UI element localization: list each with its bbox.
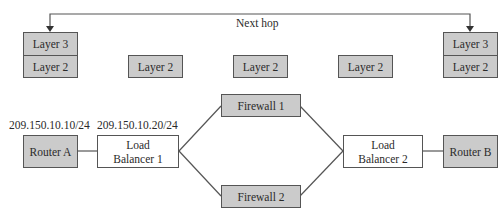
- lb1-label-line2: Balancer 1: [113, 152, 163, 166]
- router-a-ip-label: 209.150.10.10/24: [9, 119, 90, 131]
- right-layer3-label: Layer 3: [453, 37, 488, 51]
- router-a-label: Router A: [30, 145, 72, 159]
- next-hop-label: Next hop: [236, 17, 278, 29]
- left-layer2-box: Layer 2: [23, 55, 78, 78]
- load-balancer-1-node: Load Balancer 1: [97, 135, 179, 168]
- middle-layer2-label: Layer 2: [243, 60, 278, 74]
- lb1-label-line1: Load: [126, 138, 150, 152]
- middle-layer2-box: Layer 2: [233, 55, 288, 78]
- middle-layer2-label: Layer 2: [348, 60, 383, 74]
- lb1-ip-label: 209.150.10.20/24: [97, 119, 178, 131]
- firewall-1-label: Firewall 1: [238, 99, 285, 113]
- left-layer2-label: Layer 2: [33, 60, 68, 74]
- middle-layer2-box: Layer 2: [128, 55, 183, 78]
- right-layer3-box: Layer 3: [443, 32, 498, 56]
- lb2-label-line1: Load: [371, 138, 395, 152]
- firewall-2-label: Firewall 2: [238, 190, 285, 204]
- left-layer3-box: Layer 3: [23, 32, 78, 56]
- router-b-node: Router B: [443, 135, 498, 168]
- right-layer2-box: Layer 2: [443, 55, 498, 78]
- firewall-2-node: Firewall 2: [221, 185, 301, 208]
- router-a-node: Router A: [23, 135, 78, 168]
- right-layer2-label: Layer 2: [453, 60, 488, 74]
- load-balancer-2-node: Load Balancer 2: [343, 135, 423, 168]
- left-layer3-label: Layer 3: [33, 37, 68, 51]
- router-b-label: Router B: [450, 145, 492, 159]
- firewall-1-node: Firewall 1: [221, 94, 301, 117]
- lb2-label-line2: Balancer 2: [358, 152, 408, 166]
- middle-layer2-label: Layer 2: [138, 60, 173, 74]
- middle-layer2-box: Layer 2: [338, 55, 393, 78]
